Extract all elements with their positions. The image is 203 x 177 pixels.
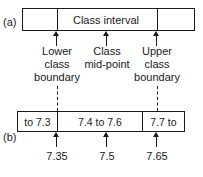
caption-lower-line-3: boundary (20, 71, 94, 84)
numeric-cell-current-class: 7.4 to 7.6 (58, 112, 143, 131)
class-interval-label: Class interval (57, 9, 155, 30)
caption-upper-class-boundary: Upper class boundary (120, 45, 194, 84)
arrow-up-midpoint-icon (102, 31, 111, 46)
caption-upper-line-3: boundary (120, 71, 194, 84)
interval-bar-right-divider (157, 9, 158, 30)
dashed-connector-lower-boundary (57, 86, 58, 111)
arrow-up-value-mid-icon (102, 132, 111, 147)
numeric-cell-previous-class: to 7.3 (18, 112, 58, 131)
tick-value-mid-point: 7.5 (85, 150, 129, 163)
panel-b-letter: (b) (3, 132, 16, 143)
arrow-up-value-lower-icon (52, 132, 61, 147)
class-interval-diagram: (a) (b) Class interval Lower class bound… (0, 0, 203, 177)
caption-upper-line-1: Upper (120, 45, 194, 58)
tick-value-lower-boundary: 7.35 (35, 150, 79, 163)
numeric-class-bar: to 7.3 7.4 to 7.6 7.7 to (17, 111, 185, 132)
dashed-connector-upper-boundary (157, 86, 158, 111)
numeric-cell-next-class: 7.7 to (143, 112, 184, 131)
caption-upper-line-2: class (120, 58, 194, 71)
arrow-up-upper-boundary-icon (152, 31, 161, 46)
class-interval-bar: Class interval (22, 8, 195, 31)
panel-a-letter: (a) (3, 17, 16, 28)
tick-value-upper-boundary: 7.65 (135, 150, 179, 163)
arrow-up-value-upper-icon (152, 132, 161, 147)
arrow-up-lower-boundary-icon (52, 31, 61, 46)
